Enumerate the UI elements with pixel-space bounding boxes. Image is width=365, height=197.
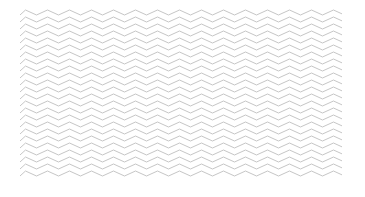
zigzag-line — [20, 129, 342, 134]
zigzag-line — [20, 143, 342, 148]
zigzag-line — [20, 87, 342, 92]
zigzag-line — [20, 171, 342, 176]
zigzag-line — [20, 115, 342, 120]
zigzag-line — [20, 122, 342, 127]
zigzag-line — [20, 10, 342, 15]
zigzag-line — [20, 17, 342, 22]
zigzag-line — [20, 52, 342, 57]
zigzag-line — [20, 136, 342, 141]
zigzag-line — [20, 108, 342, 113]
zigzag-line — [20, 31, 342, 36]
zigzag-lines-graphic — [20, 8, 342, 180]
zigzag-line — [20, 164, 342, 169]
zigzag-line — [20, 24, 342, 29]
zigzag-line — [20, 80, 342, 85]
zigzag-line — [20, 66, 342, 71]
zigzag-line — [20, 101, 342, 106]
zigzag-pattern — [20, 8, 342, 180]
zigzag-line — [20, 150, 342, 155]
zigzag-line — [20, 45, 342, 50]
zigzag-line — [20, 38, 342, 43]
zigzag-line — [20, 157, 342, 162]
zigzag-line — [20, 59, 342, 64]
zigzag-line — [20, 94, 342, 99]
zigzag-line — [20, 73, 342, 78]
